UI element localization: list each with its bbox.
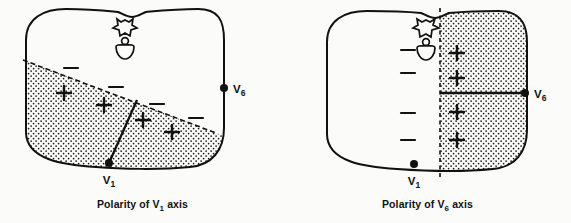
electrode-v1[interactable]: V1 xyxy=(408,160,421,190)
caption-v6-prefix: Polarity of V xyxy=(382,198,445,210)
electrode-v1-label: V1 xyxy=(408,175,421,190)
caption-v1: Polarity of V1 axis xyxy=(0,198,285,213)
panel-v6-polarity: V1 V6 Polarity of V6 axis xyxy=(285,0,570,223)
vertebra-icon xyxy=(113,19,137,59)
v6-minus-signs xyxy=(401,50,415,140)
caption-v6-suffix: axis xyxy=(449,198,473,210)
panel-v1-polarity: V1 V6 Polarity of V1 axis xyxy=(0,0,285,223)
vertebra-icon xyxy=(413,19,439,60)
v1-diagram: V1 V6 xyxy=(0,0,285,196)
caption-v1-suffix: axis xyxy=(164,198,188,210)
caption-v1-prefix: Polarity of V xyxy=(97,198,160,210)
v6-diagram: V1 V6 xyxy=(285,0,570,196)
electrode-v1-label: V1 xyxy=(103,174,116,189)
electrode-v6-label: V6 xyxy=(233,83,246,98)
caption-v6: Polarity of V6 axis xyxy=(285,198,570,213)
electrode-v6-label: V6 xyxy=(534,88,547,103)
